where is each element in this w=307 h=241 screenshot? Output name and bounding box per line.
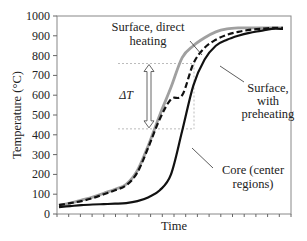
label-preheating-3: preheating <box>242 107 296 121</box>
x-axis <box>57 214 291 217</box>
y-tick-label: 0 <box>44 207 50 221</box>
y-axis: 01002003004005006007008009001000 <box>26 9 57 221</box>
y-tick-label: 100 <box>32 187 50 201</box>
temperature-chart: 01002003004005006007008009001000 ΔT Surf… <box>0 0 307 241</box>
x-axis-label: Time <box>161 219 187 233</box>
label-core-2: regions) <box>233 177 274 191</box>
delta-t-label: ΔT <box>118 88 134 102</box>
y-tick-label: 300 <box>32 148 50 162</box>
label-preheating-1: Surface, <box>247 81 288 95</box>
label-direct-heating-1: Surface, direct <box>112 20 185 34</box>
y-tick-label: 400 <box>32 128 50 142</box>
y-tick-label: 600 <box>32 88 50 102</box>
y-axis-label: Temperature (°C) <box>10 71 24 159</box>
y-tick-label: 500 <box>32 108 50 122</box>
y-tick-label: 800 <box>32 49 50 63</box>
callout-line-preheat <box>220 66 244 82</box>
callout-line-core <box>192 148 213 168</box>
label-core-1: Core (center <box>222 163 285 177</box>
y-tick-label: 700 <box>32 68 50 82</box>
label-direct-heating-2: heating <box>130 34 168 48</box>
y-tick-label: 1000 <box>26 9 50 23</box>
y-tick-label: 900 <box>32 29 50 43</box>
delta-t-arrow <box>144 65 154 128</box>
label-preheating-2: with <box>257 94 280 108</box>
y-tick-label: 200 <box>32 167 50 181</box>
